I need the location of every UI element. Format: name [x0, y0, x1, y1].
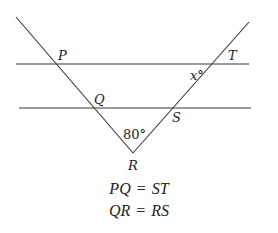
equation-2-op: =	[130, 202, 151, 219]
label-S: S	[172, 110, 181, 125]
label-P: P	[57, 48, 67, 63]
equation-2: QR=RS	[0, 200, 278, 222]
equation-2-rhs: RS	[151, 202, 169, 219]
equation-1: PQ=ST	[0, 178, 278, 200]
geometry-figure: P T Q S R x° 80° PQ=ST QR=RS	[0, 0, 278, 233]
label-R: R	[127, 158, 138, 173]
left-transversal	[16, 17, 133, 153]
right-transversal	[133, 22, 249, 153]
label-T: T	[228, 48, 238, 63]
equation-1-op: =	[131, 180, 152, 197]
equation-1-rhs: ST	[152, 180, 169, 197]
given-equations: PQ=ST QR=RS	[0, 178, 278, 222]
equation-1-lhs: PQ	[109, 180, 130, 197]
angle-R-label: 80°	[123, 127, 146, 142]
equation-2-lhs: QR	[109, 202, 130, 219]
label-Q: Q	[94, 92, 105, 107]
angle-x-label: x°	[190, 68, 204, 83]
